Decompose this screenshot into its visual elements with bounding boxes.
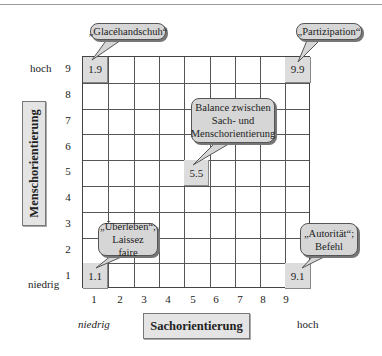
callout-text: „Partizipation“ bbox=[298, 25, 361, 38]
callout-glacehandschuh: „Glacéhandschuh“ bbox=[90, 23, 166, 40]
callout-text: Balance zwischen bbox=[195, 101, 271, 114]
callout-tails bbox=[0, 0, 382, 356]
callout-text: „Glacéhandschuh“ bbox=[89, 25, 168, 38]
callout-text: Sach- und bbox=[212, 114, 254, 127]
callout-text: Laissez faire bbox=[102, 233, 154, 259]
callout-balance: Balance zwischen Sach- und Menschorienti… bbox=[191, 98, 275, 143]
callout-text: Befehl bbox=[315, 240, 343, 253]
callout-text: Menschorientierung bbox=[191, 127, 276, 140]
callout-ueberleben: „Überleben“; Laissez faire bbox=[98, 223, 158, 256]
callout-partizipation: „Partizipation“ bbox=[296, 23, 362, 40]
callout-text: „Überleben“; bbox=[100, 220, 156, 233]
callout-text: „Autorität“; bbox=[304, 227, 354, 240]
callout-autoritaet: „Autorität“; Befehl bbox=[300, 223, 358, 256]
